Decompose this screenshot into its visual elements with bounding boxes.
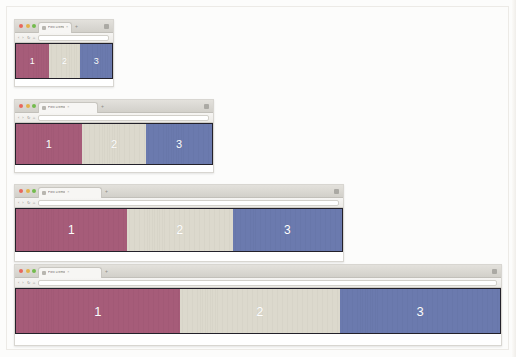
new-tab-button[interactable]: +: [105, 189, 108, 194]
browser-window-3: Flex Demo×+‹›↻⌂123: [14, 184, 344, 262]
browser-tab[interactable]: Flex Demo×: [38, 267, 102, 278]
browser-toolbar: ‹›↻⌂: [15, 198, 343, 208]
browser-window-4: Flex Demo×+‹›↻⌂123: [14, 264, 502, 346]
window-controls[interactable]: [19, 104, 36, 108]
tab-close-icon[interactable]: ×: [67, 106, 69, 110]
home-icon[interactable]: ⌂: [33, 116, 35, 120]
flex-panel-3: 3: [80, 44, 112, 78]
maximize-button-icon[interactable]: [32, 189, 36, 193]
flex-panel-label: 3: [284, 224, 291, 236]
flex-panel-label: 1: [46, 139, 52, 150]
navigation-buttons[interactable]: ‹›↻⌂: [18, 201, 35, 205]
page-right-edge-shading: [512, 0, 516, 357]
new-tab-button[interactable]: +: [101, 104, 104, 109]
flex-panel-label: 2: [256, 305, 263, 318]
flex-panel-label: 1: [30, 57, 35, 66]
flex-panel-3: 3: [233, 209, 342, 251]
browser-titlebar[interactable]: Flex Demo×+: [15, 185, 343, 198]
tab-close-icon[interactable]: ×: [67, 191, 69, 195]
flex-panel-2: 2: [82, 124, 147, 164]
tab-favicon-icon: [42, 191, 46, 195]
flex-panel-label: 2: [111, 139, 117, 150]
back-arrow-icon[interactable]: ‹: [18, 201, 19, 205]
window-controls[interactable]: [19, 269, 36, 273]
close-button-icon[interactable]: [19, 24, 23, 28]
hamburger-menu-icon[interactable]: [492, 269, 497, 274]
flex-panel-label: 3: [176, 139, 182, 150]
maximize-button-icon[interactable]: [32, 24, 36, 28]
flex-panel-3: 3: [340, 289, 500, 333]
flex-panel-2: 2: [49, 44, 81, 78]
page-content-empty-area: [15, 165, 213, 173]
address-bar-input[interactable]: [38, 200, 339, 206]
minimize-button-icon[interactable]: [26, 104, 30, 108]
tab-title: Flex Demo: [48, 191, 65, 194]
reload-icon[interactable]: ↻: [27, 36, 30, 40]
close-button-icon[interactable]: [19, 189, 23, 193]
reload-icon[interactable]: ↻: [27, 281, 30, 285]
browser-toolbar: ‹›↻⌂: [15, 113, 213, 123]
reload-icon[interactable]: ↻: [27, 116, 30, 120]
hamburger-menu-icon[interactable]: [104, 24, 109, 29]
minimize-button-icon[interactable]: [26, 189, 30, 193]
browser-tab[interactable]: Flex Demo×: [38, 22, 72, 33]
flex-panel-label: 3: [94, 57, 99, 66]
forward-arrow-icon[interactable]: ›: [22, 116, 23, 120]
new-tab-button[interactable]: +: [75, 24, 78, 29]
minimize-button-icon[interactable]: [26, 269, 30, 273]
close-button-icon[interactable]: [19, 269, 23, 273]
browser-titlebar[interactable]: Flex Demo×+: [15, 265, 501, 278]
reload-icon[interactable]: ↻: [27, 201, 30, 205]
flex-container: 123: [15, 288, 501, 334]
page-content-empty-area: [15, 79, 113, 87]
home-icon[interactable]: ⌂: [33, 201, 35, 205]
forward-arrow-icon[interactable]: ›: [22, 36, 23, 40]
tab-close-icon[interactable]: ×: [67, 271, 69, 275]
back-arrow-icon[interactable]: ‹: [18, 281, 19, 285]
home-icon[interactable]: ⌂: [33, 281, 35, 285]
back-arrow-icon[interactable]: ‹: [18, 116, 19, 120]
home-icon[interactable]: ⌂: [33, 36, 35, 40]
page-viewport: 123: [15, 208, 343, 252]
browser-titlebar[interactable]: Flex Demo×+: [15, 20, 113, 33]
flex-panel-2: 2: [180, 289, 341, 333]
flex-container: 123: [15, 208, 343, 252]
address-bar-input[interactable]: [38, 115, 209, 121]
flex-container: 123: [15, 43, 113, 79]
back-arrow-icon[interactable]: ‹: [18, 36, 19, 40]
flex-panel-1: 1: [16, 209, 127, 251]
tab-title: Flex Demo: [48, 26, 64, 29]
flex-panel-1: 1: [16, 44, 49, 78]
hamburger-menu-icon[interactable]: [204, 104, 209, 109]
flex-panel-label: 3: [417, 305, 424, 318]
maximize-button-icon[interactable]: [32, 104, 36, 108]
address-bar-input[interactable]: [38, 35, 109, 41]
flex-panel-label: 1: [68, 224, 75, 236]
close-button-icon[interactable]: [19, 104, 23, 108]
browser-tab[interactable]: Flex Demo×: [38, 102, 98, 113]
forward-arrow-icon[interactable]: ›: [22, 281, 23, 285]
browser-toolbar: ‹›↻⌂: [15, 278, 501, 288]
address-bar-input[interactable]: [38, 280, 497, 286]
browser-tab[interactable]: Flex Demo×: [38, 187, 102, 198]
navigation-buttons[interactable]: ‹›↻⌂: [18, 116, 35, 120]
browser-window-2: Flex Demo×+‹›↻⌂123: [14, 99, 214, 173]
browser-titlebar[interactable]: Flex Demo×+: [15, 100, 213, 113]
flex-panel-2: 2: [127, 209, 233, 251]
minimize-button-icon[interactable]: [26, 24, 30, 28]
navigation-buttons[interactable]: ‹›↻⌂: [18, 36, 35, 40]
forward-arrow-icon[interactable]: ›: [22, 201, 23, 205]
hamburger-menu-icon[interactable]: [334, 189, 339, 194]
new-tab-button[interactable]: +: [105, 269, 108, 274]
flex-container: 123: [15, 123, 213, 165]
tab-favicon-icon: [42, 106, 46, 110]
window-controls[interactable]: [19, 24, 36, 28]
page-viewport: 123: [15, 123, 213, 165]
maximize-button-icon[interactable]: [32, 269, 36, 273]
tab-close-icon[interactable]: ×: [66, 26, 68, 30]
window-controls[interactable]: [19, 189, 36, 193]
browser-window-1: Flex Demo×+‹›↻⌂123: [14, 19, 114, 87]
page-content-empty-area: [15, 252, 343, 262]
page-root: Flex Demo×+‹›↻⌂123Flex Demo×+‹›↻⌂123Flex…: [0, 0, 516, 357]
navigation-buttons[interactable]: ‹›↻⌂: [18, 281, 35, 285]
